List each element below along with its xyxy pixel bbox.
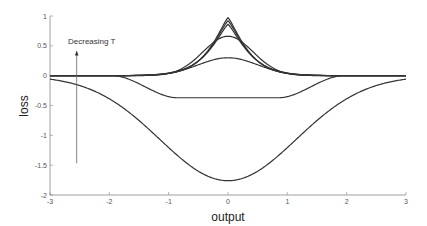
annotation-label: Decreasing T [68,37,116,46]
series-line [50,58,406,76]
x-tick-label: -1 [166,198,172,205]
arrow-head-icon [75,51,79,56]
series-line [50,76,406,98]
x-tick-label: -2 [106,198,112,205]
x-tick-label: 3 [404,198,408,205]
annotation: Decreasing T [68,37,116,163]
x-tick-label: -3 [47,198,53,205]
series-line [50,24,406,75]
y-tick-label: 0 [43,72,47,79]
x-tick-label: 2 [345,198,349,205]
series-line [50,79,406,181]
x-axis-label: output [211,210,245,224]
y-tick-label: -1.5 [35,162,47,169]
y-tick-label: 1 [43,13,47,20]
x-tick-label: 1 [285,198,289,205]
x-ticks: -3-2-10123 [47,192,408,205]
y-tick-label: 0.5 [37,42,47,49]
loss-chart: 10.50-0.5-1-1.5-2 -3-2-10123 Decreasing … [0,0,427,226]
x-tick-label: 0 [226,198,230,205]
y-axis-label: loss [17,95,31,116]
y-tick-label: -1 [41,132,47,139]
y-tick-label: -0.5 [35,102,47,109]
series-line [50,18,406,76]
series-line [50,21,406,76]
